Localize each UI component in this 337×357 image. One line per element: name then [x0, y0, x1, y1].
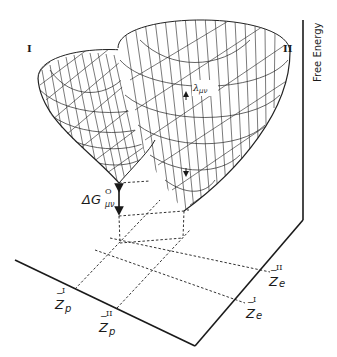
delta-g-subscript: μν: [105, 201, 115, 209]
tick-zp-I: Z − I p: [55, 298, 64, 311]
delta-g-superscript: O: [105, 188, 112, 196]
well-label-II: II: [283, 44, 292, 54]
tick-ze-I-sup: I: [253, 296, 256, 304]
tick-ze-II-sub: e: [279, 279, 285, 289]
tick-ze-I-sub: e: [256, 311, 262, 321]
tick-ze-I-base: Z: [246, 306, 255, 321]
tick-ze-II-base: Z: [269, 274, 278, 289]
tick-ze-II: Z − II e: [269, 275, 278, 288]
electron-coordinate-axis: [195, 220, 303, 346]
tick-zp-II-sub: p: [109, 327, 115, 337]
tick-ze-I: Z − I e: [246, 307, 255, 320]
tick-zp-I-sup: I: [62, 287, 65, 295]
lambda-subscript: μν: [199, 88, 207, 95]
well-II-surface: [110, 10, 300, 220]
well-label-I: I: [27, 44, 32, 54]
tick-zp-I-base: Z: [55, 297, 64, 312]
tick-zp-I-sub: p: [65, 304, 71, 314]
tick-zp-II-sup: II: [106, 310, 112, 318]
lambda-label: λ μν: [193, 83, 199, 93]
free-energy-axis-title: Free Energy: [313, 23, 323, 82]
free-energy-surface-diagram: I II Free Energy ΔG O μν λ μν Z − I p Z …: [0, 0, 337, 357]
tick-zp-II: Z − II p: [99, 321, 108, 334]
delta-g-symbol: ΔG: [82, 192, 101, 207]
tick-zp-II-base: Z: [99, 320, 108, 335]
tick-ze-II-sup: II: [276, 264, 282, 272]
delta-g-label: ΔG O μν: [82, 193, 101, 206]
